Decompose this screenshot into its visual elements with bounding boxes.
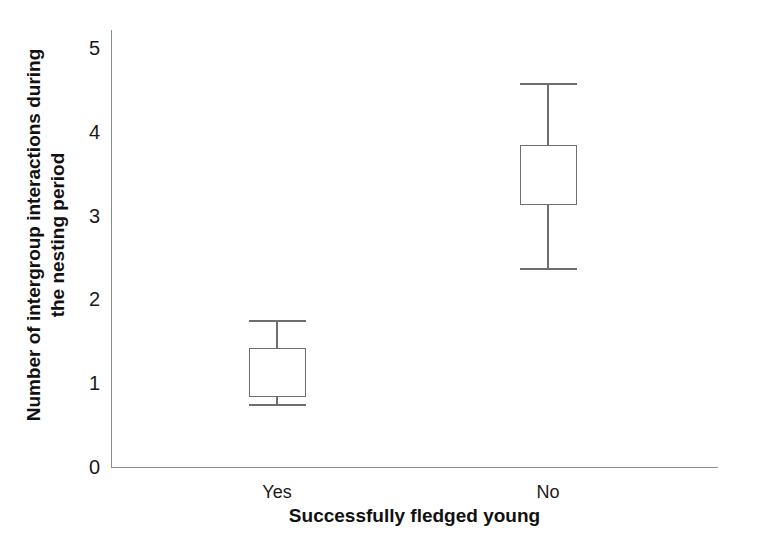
box-iqr (249, 348, 306, 397)
x-tick-label-yes: Yes (217, 482, 337, 502)
whisker-cap-upper (249, 320, 306, 322)
y-axis-title-line-2: the nesting period (46, 49, 70, 422)
whisker-lower (547, 205, 549, 268)
y-tick-label-0: 0 (60, 457, 100, 477)
y-axis-title: Number of intergroup interactions during… (0, 0, 92, 470)
y-axis-title-line-1: Number of intergroup interactions during (22, 49, 46, 422)
whisker-cap-upper (520, 83, 577, 85)
x-axis-line (111, 467, 718, 468)
x-axis-title: Successfully fledged young (111, 505, 718, 527)
y-tick-label-5: 5 (60, 38, 100, 58)
y-tick-label-4: 4 (60, 122, 100, 142)
y-tick-label-1: 1 (60, 373, 100, 393)
y-tick-label-2: 2 (60, 289, 100, 309)
y-axis-line (111, 30, 112, 468)
y-tick-label-3: 3 (60, 206, 100, 226)
box-plot-figure: Number of intergroup interactions during… (0, 0, 758, 554)
box-iqr (520, 145, 577, 204)
whisker-upper (547, 83, 549, 145)
whisker-cap-lower (520, 268, 577, 270)
plot-area: 543210 YesNo (111, 30, 718, 467)
whisker-lower (276, 397, 278, 404)
whisker-upper (276, 320, 278, 348)
whisker-cap-lower (249, 404, 306, 406)
x-tick-label-no: No (488, 482, 608, 502)
